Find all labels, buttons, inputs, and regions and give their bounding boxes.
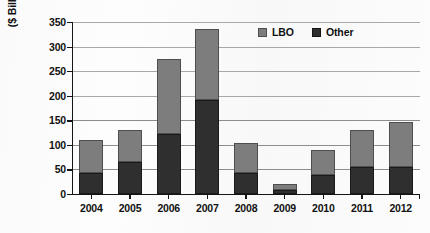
other-swatch-icon (312, 28, 321, 37)
x-tick-mark (284, 194, 285, 199)
y-tick-label: 50 (32, 163, 66, 175)
x-tick-mark (168, 194, 169, 199)
legend-label-other: Other (326, 26, 354, 38)
bar-2005 (118, 22, 142, 194)
bar-segment-other-2008 (234, 173, 258, 194)
x-tick-mark (400, 194, 401, 199)
y-tick-label: 150 (32, 114, 66, 126)
y-axis-tick-labels: 050100150200250300350 (30, 22, 66, 194)
bar-2012 (389, 22, 413, 194)
bar-2007 (195, 22, 219, 194)
y-tick-label: 100 (32, 139, 66, 151)
x-tick-mark (361, 194, 362, 199)
x-tick-mark (91, 194, 92, 199)
x-tick-mark (129, 194, 130, 199)
bar-segment-lbo-2008 (234, 143, 258, 173)
bar-segment-lbo-2005 (118, 130, 142, 162)
lbo-swatch-icon (258, 28, 267, 37)
bar-segment-lbo-2010 (311, 150, 335, 176)
y-axis-line (72, 22, 73, 195)
x-tick-mark (245, 194, 246, 199)
legend-label-lbo: LBO (272, 26, 294, 38)
legend-item-lbo: LBO (258, 26, 294, 38)
bar-segment-lbo-2006 (157, 59, 181, 134)
bar-segment-other-2006 (157, 134, 181, 194)
y-tick-label: 300 (32, 41, 66, 53)
y-tick-label: 200 (32, 90, 66, 102)
bar-segment-other-2010 (311, 175, 335, 194)
bar-2006 (157, 22, 181, 194)
bar-segment-other-2005 (118, 162, 142, 194)
x-tick-label-2012: 2012 (377, 202, 425, 214)
bar-segment-lbo-2011 (350, 130, 374, 167)
bar-2004 (79, 22, 103, 194)
x-axis-tick-labels: 200420052006200720082009201020112012 (72, 198, 420, 222)
bar-segment-lbo-2004 (79, 140, 103, 173)
y-tick-label: 0 (32, 188, 66, 200)
y-axis-title: ($ Billions) (6, 0, 18, 56)
bar-segment-other-2012 (389, 167, 413, 194)
bar-segment-lbo-2007 (195, 29, 219, 99)
chart-figure: ($ Billions) 050100150200250300350 20042… (0, 0, 430, 233)
x-axis-end-tick-mark (419, 194, 420, 199)
chart-legend: LBO Other (258, 26, 353, 38)
plot-area (72, 22, 420, 194)
bar-2009 (273, 22, 297, 194)
x-tick-mark (323, 194, 324, 199)
bar-2010 (311, 22, 335, 194)
bar-2011 (350, 22, 374, 194)
y-tick-label: 350 (32, 16, 66, 28)
bar-segment-other-2004 (79, 173, 103, 194)
bar-segment-other-2007 (195, 100, 219, 194)
bar-segment-other-2011 (350, 167, 374, 194)
bar-2008 (234, 22, 258, 194)
bar-segment-lbo-2012 (389, 122, 413, 167)
bar-segment-lbo-2009 (273, 184, 297, 190)
x-tick-mark (207, 194, 208, 199)
legend-item-other: Other (312, 26, 354, 38)
y-tick-label: 250 (32, 65, 66, 77)
